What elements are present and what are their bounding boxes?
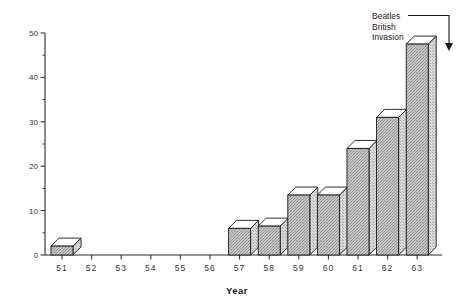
bar-front-face <box>51 246 73 255</box>
bar-61 <box>347 140 377 255</box>
y-tick-label: 50 <box>29 29 38 38</box>
x-tick-label-53: 53 <box>115 263 126 273</box>
bar-side-face <box>369 140 377 255</box>
bar-chart-figure: 01020304050 51525354555657585960616263 B… <box>0 0 471 307</box>
bar-front-face <box>347 148 369 255</box>
x-tick-label-59: 59 <box>293 263 304 273</box>
bar-side-face <box>399 109 407 255</box>
x-tick-label-55: 55 <box>175 263 186 273</box>
bar-side-face <box>339 187 347 255</box>
y-tick-label: 10 <box>29 207 38 216</box>
bar-57 <box>229 220 259 255</box>
y-tick-label: 30 <box>29 118 38 127</box>
bar-58 <box>258 218 288 255</box>
annotation-line-1: Beatles <box>372 11 400 21</box>
bar-front-face <box>406 44 428 255</box>
x-tick-label-54: 54 <box>145 263 156 273</box>
x-tick-label-60: 60 <box>323 263 334 273</box>
annotation-line-2: British <box>372 22 396 32</box>
bar-59 <box>288 187 318 255</box>
x-tick-label-58: 58 <box>263 263 274 273</box>
bar-63 <box>406 36 436 255</box>
x-tick-label-62: 62 <box>382 263 393 273</box>
bar-front-face <box>229 228 251 255</box>
chart-canvas: 01020304050 51525354555657585960616263 B… <box>0 0 471 307</box>
x-axis-title: Year <box>226 285 248 296</box>
bar-side-face <box>428 36 436 255</box>
y-tick-label: 0 <box>34 251 39 260</box>
x-tick-label-57: 57 <box>234 263 245 273</box>
x-tick-label-52: 52 <box>86 263 97 273</box>
bar-side-face <box>310 187 318 255</box>
bar-front-face <box>258 226 280 255</box>
bar-front-face <box>377 117 399 255</box>
x-tick-label-63: 63 <box>411 263 422 273</box>
y-tick-label: 20 <box>29 162 38 171</box>
y-tick-label: 40 <box>29 73 38 82</box>
x-tick-label-56: 56 <box>204 263 215 273</box>
x-tick-label-61: 61 <box>352 263 363 273</box>
bar-60 <box>317 187 347 255</box>
x-tick-label-51: 51 <box>56 263 67 273</box>
bar-front-face <box>288 195 310 255</box>
bar-front-face <box>317 195 339 255</box>
annotation-line-3: Invasion <box>372 32 404 42</box>
bar-62 <box>377 109 407 255</box>
